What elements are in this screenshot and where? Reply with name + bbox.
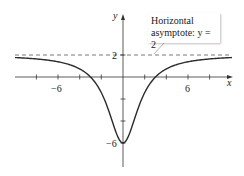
annotation-line-2: asymptote: y = 2 <box>151 27 217 51</box>
y-tick-label-neg6: −6 <box>106 138 117 149</box>
x-tick-label-6: 6 <box>185 83 190 94</box>
x-tick-label-neg6: −6 <box>51 83 62 94</box>
asymptote-annotation: Horizontal asymptote: y = 2 <box>148 13 220 43</box>
y-axis-label: y <box>112 10 118 21</box>
annotation-line-1: Horizontal <box>151 15 217 27</box>
x-axis-label: x <box>226 77 232 88</box>
y-axis-arrow-icon <box>121 14 125 20</box>
y-tick-label-2: 2 <box>112 50 117 61</box>
function-curve <box>15 58 232 143</box>
